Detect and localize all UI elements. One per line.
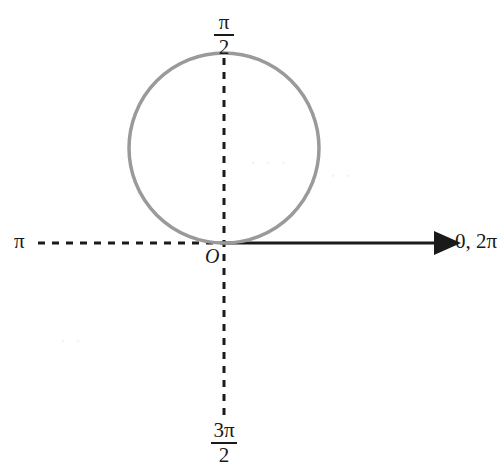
figure-canvas: · · · · · · · π 2 3π 2 π	[0, 0, 501, 476]
fraction-numerator: 3π	[211, 420, 236, 442]
fraction-denominator: 2	[217, 36, 232, 58]
fraction-three-pi-over-2: 3π 2	[211, 420, 236, 466]
angle-label-zero-two-pi: 0, 2π	[455, 231, 497, 252]
origin-label: O	[205, 246, 219, 266]
angle-label-pi-over-2: π 2	[200, 12, 248, 58]
fraction-denominator: 2	[217, 444, 232, 466]
angle-label-pi: π	[14, 231, 25, 252]
polar-diagram	[0, 0, 501, 476]
angle-label-three-pi-over-2: 3π 2	[196, 420, 252, 466]
fraction-numerator: π	[217, 12, 232, 34]
fraction-pi-over-2: π 2	[214, 12, 234, 58]
